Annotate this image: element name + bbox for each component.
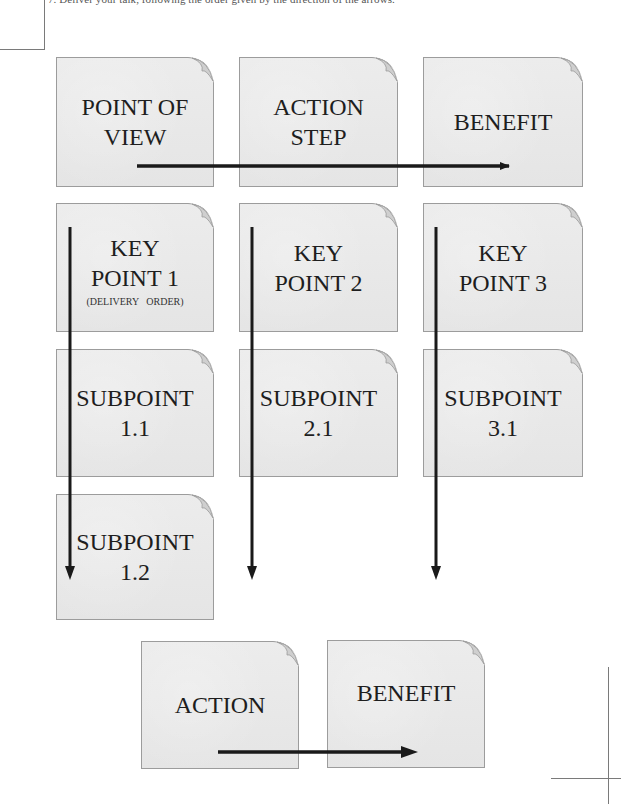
crop-mark-top-left-vertical xyxy=(44,0,45,49)
page-curl-icon xyxy=(374,203,398,229)
card-subpoint-3-1: SUBPOINT 3.1 xyxy=(423,349,583,477)
card-subpoint-1-1: SUBPOINT 1.1 xyxy=(56,349,214,477)
page-curl-icon xyxy=(559,349,583,375)
card-benefit-top: BENEFIT xyxy=(423,57,583,187)
card-label: SUBPOINT 3.1 xyxy=(444,383,561,443)
card-label: KEY POINT 2 xyxy=(274,238,362,298)
page-curl-icon xyxy=(190,203,214,229)
crop-mark-top-left-horizontal xyxy=(0,49,45,50)
card-label: SUBPOINT 2.1 xyxy=(260,383,377,443)
card-subpoint-2-1: SUBPOINT 2.1 xyxy=(239,349,398,477)
card-label: KEY POINT 1 xyxy=(91,233,179,293)
instruction-text: 7. Deliver your talk, following the orde… xyxy=(48,0,395,5)
card-key-point-1: KEY POINT 1 (DELIVERY ORDER) xyxy=(56,203,214,332)
page-curl-icon xyxy=(374,57,398,83)
card-action-step: ACTION STEP xyxy=(239,57,398,187)
page-curl-icon xyxy=(559,203,583,229)
card-action-bottom: ACTION xyxy=(141,641,299,769)
card-label: POINT OF VIEW xyxy=(82,92,189,152)
card-note: (DELIVERY ORDER) xyxy=(86,295,183,309)
card-label: ACTION xyxy=(175,690,266,720)
page-curl-icon xyxy=(275,641,299,667)
page-curl-icon xyxy=(374,349,398,375)
card-subpoint-1-2: SUBPOINT 1.2 xyxy=(56,494,214,620)
card-label: SUBPOINT 1.2 xyxy=(76,527,193,587)
card-key-point-2: KEY POINT 2 xyxy=(239,203,398,332)
page-curl-icon xyxy=(190,57,214,83)
crop-mark-bottom-right-horizontal xyxy=(551,778,621,779)
page-curl-icon xyxy=(190,494,214,520)
card-label: BENEFIT xyxy=(454,107,553,137)
card-label: KEY POINT 3 xyxy=(459,238,547,298)
card-label: SUBPOINT 1.1 xyxy=(76,383,193,443)
card-label: BENEFIT xyxy=(357,678,456,708)
page-curl-icon xyxy=(559,57,583,83)
crop-mark-bottom-right-vertical xyxy=(608,667,609,804)
page-curl-icon xyxy=(461,640,485,666)
page-curl-icon xyxy=(190,349,214,375)
card-label: ACTION STEP xyxy=(273,92,364,152)
card-key-point-3: KEY POINT 3 xyxy=(423,203,583,332)
card-point-of-view: POINT OF VIEW xyxy=(56,57,214,187)
card-benefit-bottom: BENEFIT xyxy=(327,640,485,768)
